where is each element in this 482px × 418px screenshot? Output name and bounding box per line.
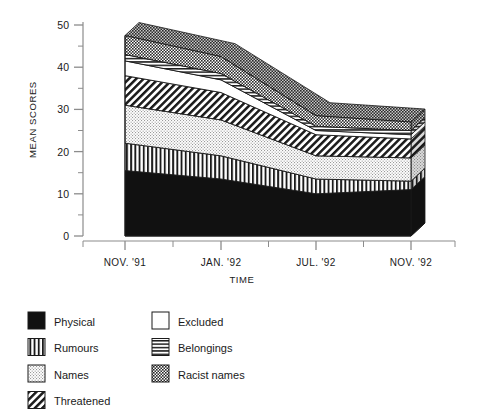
chart-svg: 01020304050 MEAN SCORES NOV. '91JAN. '92… xyxy=(0,0,482,418)
area-bands xyxy=(125,23,425,236)
legend-label: Physical xyxy=(54,316,95,328)
y-tick-label: 10 xyxy=(57,188,69,200)
x-tick-label: JUL. '92 xyxy=(296,257,336,268)
legend-label: Belongings xyxy=(178,342,233,354)
legend-item[interactable]: Names xyxy=(28,365,89,382)
legend-swatch-diagonal-hatch xyxy=(28,392,45,409)
legend-swatch-solid-black xyxy=(28,312,45,329)
x-axis-title: TIME xyxy=(229,274,254,285)
legend-item[interactable]: Racist names xyxy=(152,365,245,382)
y-axis: 01020304050 MEAN SCORES xyxy=(27,19,83,242)
y-tick-label: 0 xyxy=(63,230,69,242)
legend-item[interactable]: Rumours xyxy=(28,339,99,356)
y-tick-label: 30 xyxy=(57,103,69,115)
legend-label: Threatened xyxy=(54,395,110,407)
y-tick-label: 40 xyxy=(57,61,69,73)
legend-label: Names xyxy=(54,369,89,381)
stacked-area-chart: 01020304050 MEAN SCORES NOV. '91JAN. '92… xyxy=(0,0,482,418)
chart-legend: PhysicalRumoursNamesThreatenedExcludedBe… xyxy=(28,312,245,409)
x-axis: NOV. '91JAN. '92JUL. '92NOV. '92 TIME xyxy=(83,241,455,285)
legend-swatch-light-stipple xyxy=(28,365,45,382)
y-axis-title: MEAN SCORES xyxy=(27,81,38,158)
y-tick-marks xyxy=(74,25,83,236)
legend-item[interactable]: Physical xyxy=(28,312,95,329)
legend-item[interactable]: Belongings xyxy=(152,339,233,356)
y-tick-label: 50 xyxy=(57,19,69,31)
x-tick-label: NOV. '91 xyxy=(104,257,147,268)
y-tick-label: 20 xyxy=(57,146,69,158)
legend-swatch-vertical-lines xyxy=(28,339,45,356)
x-tick-marks xyxy=(83,241,455,250)
x-tick-labels: NOV. '91JAN. '92JUL. '92NOV. '92 xyxy=(104,257,433,268)
legend-item[interactable]: Threatened xyxy=(28,392,110,409)
y-tick-labels: 01020304050 xyxy=(57,19,69,242)
legend-swatch-white xyxy=(152,312,169,329)
legend-label: Excluded xyxy=(178,316,223,328)
x-tick-label: NOV. '92 xyxy=(390,257,433,268)
legend-swatch-dark-checker xyxy=(152,365,169,382)
legend-label: Racist names xyxy=(178,369,245,381)
legend-label: Rumours xyxy=(54,342,99,354)
x-tick-label: JAN. '92 xyxy=(201,257,242,268)
legend-swatch-horizontal-lines xyxy=(152,339,169,356)
legend-item[interactable]: Excluded xyxy=(152,312,223,329)
